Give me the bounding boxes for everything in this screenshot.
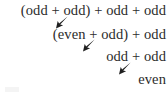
derivation-line-1: (odd + odd) + odd + odd [21, 2, 166, 18]
reduction-arrow-2-icon [82, 39, 96, 52]
scan-artifact [5, 87, 19, 92]
parity-derivation-figure: (odd + odd) + odd + odd (even + odd) + o… [0, 0, 168, 96]
reduction-arrow-3-icon [118, 62, 132, 75]
derivation-line-4: even [138, 71, 166, 87]
derivation-line-2: (even + odd) + odd [53, 26, 166, 42]
derivation-line-3: odd + odd [106, 48, 166, 64]
